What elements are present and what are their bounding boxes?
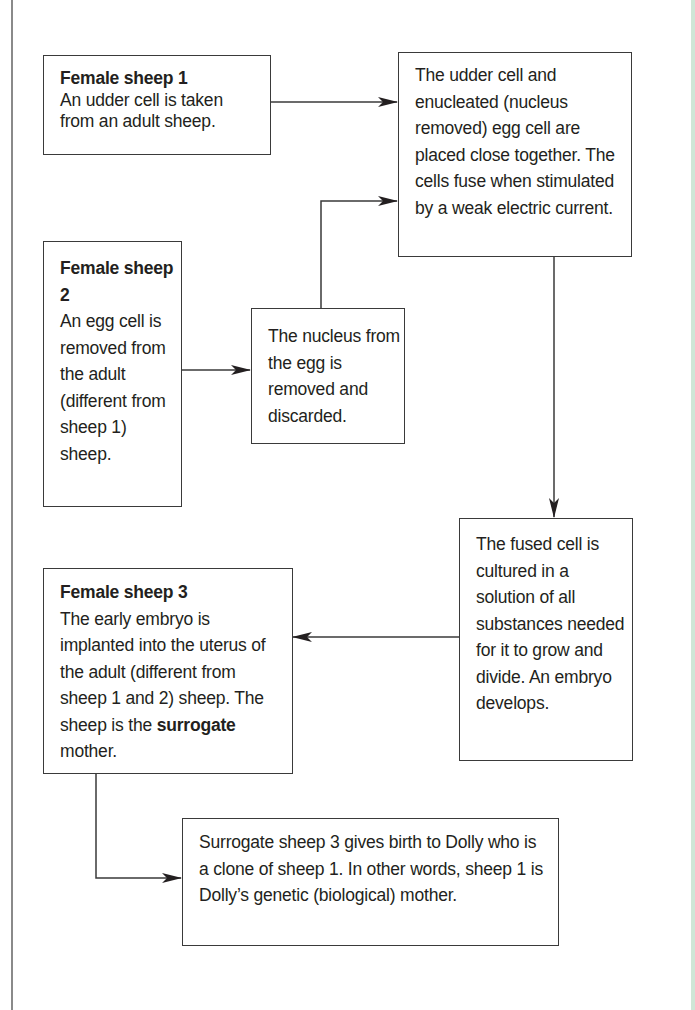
box-nucleus-removed: The nucleus from the egg is removed and … [251, 308, 405, 444]
box-female-sheep-3: Female sheep 3 The early embryo is impla… [43, 568, 293, 774]
box-text: The nucleus from the egg is removed and … [268, 323, 400, 429]
box-text: The fused cell is cultured in a solution… [476, 531, 626, 717]
box-female-sheep-2: Female sheep 2 An egg cell is removed fr… [43, 241, 182, 507]
box-title: Female sheep 1 [60, 68, 260, 90]
arrow-nucleus-to-fusion [321, 201, 397, 308]
box-text: The early embryo is implanted into the u… [60, 606, 286, 765]
box-text: Surrogate sheep 3 gives birth to Dolly w… [199, 829, 548, 909]
box-text: An egg cell is removed from the adult (d… [60, 308, 175, 467]
box-title: Female sheep 2 [60, 255, 175, 308]
box-fused-cell-cultured: The fused cell is cultured in a solution… [459, 518, 633, 761]
box-title: Female sheep 3 [60, 579, 286, 606]
box-text-end: mother. [60, 741, 117, 761]
box-text: The udder cell and enucleated (nucleus r… [415, 62, 623, 221]
box-female-sheep-1: Female sheep 1 An udder cell is taken fr… [43, 55, 271, 155]
arrow-sheep3-to-dolly [96, 773, 181, 878]
box-dolly-birth: Surrogate sheep 3 gives birth to Dolly w… [182, 818, 559, 946]
box-cell-fusion: The udder cell and enucleated (nucleus r… [398, 52, 632, 257]
box-text: An udder cell is taken from an adult she… [60, 90, 260, 133]
surrogate-term: surrogate [157, 715, 236, 735]
